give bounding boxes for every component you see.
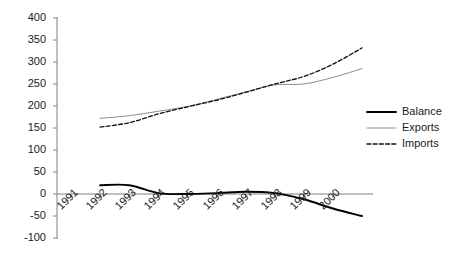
chart-series-group bbox=[100, 48, 362, 216]
y-tick-label: 400 bbox=[14, 12, 46, 23]
y-tick-label: 150 bbox=[14, 122, 46, 133]
y-tick-label: 50 bbox=[14, 166, 46, 177]
y-tick-label: 0 bbox=[14, 188, 46, 199]
y-tick-label: -50 bbox=[14, 210, 46, 221]
line-chart: 400350300250200150100500-50-100 19911992… bbox=[0, 0, 459, 255]
y-tick-label: 350 bbox=[14, 34, 46, 45]
legend-line-samples bbox=[367, 112, 396, 144]
y-tick-label: 250 bbox=[14, 78, 46, 89]
series-line-exports bbox=[100, 69, 362, 119]
legend-label-balance: Balance bbox=[402, 106, 442, 117]
legend-label-exports: Exports bbox=[402, 122, 439, 133]
y-tick-label: 200 bbox=[14, 100, 46, 111]
y-tick-label: 300 bbox=[14, 56, 46, 67]
chart-canvas bbox=[0, 0, 459, 255]
series-line-imports bbox=[100, 48, 362, 127]
y-tick-label: 100 bbox=[14, 144, 46, 155]
y-tick-label: -100 bbox=[14, 232, 46, 243]
legend-label-imports: Imports bbox=[402, 138, 439, 149]
